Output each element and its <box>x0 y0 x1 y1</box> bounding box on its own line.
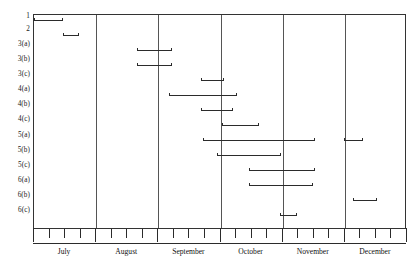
task-bar-3b <box>137 65 171 66</box>
week-tick <box>49 229 50 238</box>
month-tick <box>344 228 345 242</box>
task-label-5a: 5(a) <box>18 131 30 139</box>
task-bar-4a <box>169 95 237 96</box>
week-tick <box>266 229 267 238</box>
task-bar-6b <box>353 200 376 201</box>
task-label-3c: 3(c) <box>18 70 30 78</box>
week-tick <box>251 229 252 238</box>
week-tick <box>80 229 81 238</box>
month-tick <box>406 228 407 242</box>
task-label-4b: 4(b) <box>18 100 30 108</box>
month-label-axis: JulyAugustSeptemberOctoberNovemberDecemb… <box>33 246 406 262</box>
month-label-november: November <box>297 246 329 257</box>
task-bar-5b <box>217 155 281 156</box>
month-label-december: December <box>359 246 390 257</box>
task-bar-1 <box>34 20 63 21</box>
task-label-6a: 6(a) <box>18 176 30 184</box>
month-tick <box>282 228 283 242</box>
week-tick <box>173 229 174 238</box>
task-bar-6c <box>280 215 296 216</box>
month-gridline <box>96 15 97 228</box>
week-tick <box>126 229 127 238</box>
month-label-august: August <box>115 246 137 257</box>
month-label-october: October <box>238 246 262 257</box>
task-label-5b: 5(b) <box>18 146 30 154</box>
task-label-4c: 4(c) <box>18 115 30 123</box>
task-bar-6a <box>249 185 313 186</box>
plot-area <box>33 14 406 229</box>
task-label-axis: 123(a)3(b)3(c)4(a)4(b)4(c)5(a)5(b)5(c)6(… <box>0 0 32 271</box>
week-tick <box>188 229 189 238</box>
month-gridline <box>158 15 159 228</box>
task-bar-5c <box>249 170 314 171</box>
month-label-july: July <box>58 246 71 257</box>
task-bar-2 <box>63 35 79 36</box>
week-tick <box>111 229 112 238</box>
week-tick <box>204 229 205 238</box>
task-label-4a: 4(a) <box>18 85 30 93</box>
week-tick <box>313 229 314 238</box>
task-bar-3a <box>137 50 171 51</box>
task-bar-4c <box>222 125 259 126</box>
task-bar-4b <box>201 110 233 111</box>
week-tick <box>390 229 391 238</box>
week-tick <box>328 229 329 238</box>
task-bar-5a <box>203 140 314 141</box>
week-tick <box>142 229 143 238</box>
task-label-3b: 3(b) <box>18 55 30 63</box>
month-label-september: September <box>172 246 204 257</box>
x-axis-ticks <box>33 229 406 243</box>
month-tick <box>157 228 158 242</box>
month-tick <box>33 228 34 242</box>
month-gridline <box>221 15 222 228</box>
task-label-6b: 6(b) <box>18 191 30 199</box>
week-tick <box>235 229 236 238</box>
week-tick <box>297 229 298 238</box>
task-label-6c: 6(c) <box>18 206 30 214</box>
month-gridline <box>345 15 346 228</box>
task-label-5c: 5(c) <box>18 161 30 169</box>
week-tick <box>375 229 376 238</box>
month-gridline <box>283 15 284 228</box>
task-label-1: 1 <box>26 12 30 20</box>
month-tick <box>220 228 221 242</box>
task-label-2: 2 <box>26 25 30 33</box>
task-bar-3c <box>201 80 224 81</box>
x-axis-baseline <box>33 243 406 244</box>
week-tick <box>64 229 65 238</box>
week-tick <box>359 229 360 238</box>
task-label-3a: 3(a) <box>18 40 30 48</box>
month-tick <box>95 228 96 242</box>
task-bar-5a-2 <box>344 140 363 141</box>
gantt-chart: 123(a)3(b)3(c)4(a)4(b)4(c)5(a)5(b)5(c)6(… <box>0 0 411 271</box>
